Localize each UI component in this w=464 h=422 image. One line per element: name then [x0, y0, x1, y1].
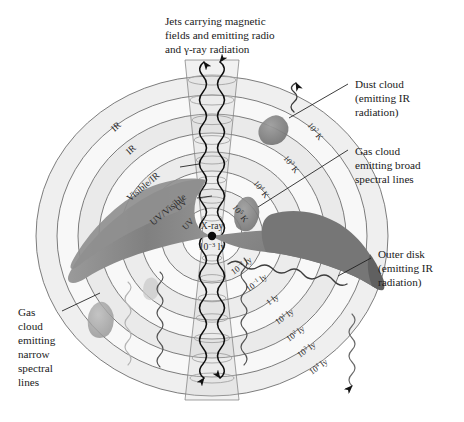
jets-label-line2: fields and emitting radio	[165, 29, 275, 41]
dust-cloud-label-line1: Dust cloud	[355, 78, 404, 90]
callout-broad-line-cloud: Gas cloud emitting broad spectral lines	[355, 145, 421, 185]
callout-outer-disk: Outer disk (emitting IR radiation)	[378, 248, 434, 289]
dust-cloud-label-line3: radiation)	[355, 106, 399, 119]
broad-line-gas-cloud-label-line3: spectral lines	[355, 173, 414, 185]
dust-cloud-label-line2: (emitting IR	[355, 92, 411, 105]
broad-line-gas-cloud-label-line2: emitting broad	[355, 159, 421, 171]
ring-label-xray-center: X-ray	[201, 220, 224, 231]
outer-disk-label-line1: Outer disk	[378, 248, 425, 260]
jets-label-line3: and γ-ray radiation	[165, 43, 250, 55]
narrow-line-gas-cloud-label-line3: emitting	[18, 334, 56, 346]
narrow-line-gas-cloud-label-line4: narrow	[18, 348, 51, 360]
narrow-line-gas-cloud-label-line1: Gas	[18, 306, 35, 318]
broad-line-gas-cloud-label-line1: Gas cloud	[355, 145, 400, 157]
callout-jets: Jets carrying magnetic fields and emitti…	[165, 15, 275, 55]
narrow-line-gas-cloud-label-line2: cloud	[18, 320, 43, 332]
agn-diagram-figure: IR IR Visible/IR UV/Visible UV UV X-ray …	[0, 0, 464, 422]
callout-dust-cloud: Dust cloud (emitting IR radiation)	[355, 78, 411, 119]
agn-diagram-svg: IR IR Visible/IR UV/Visible UV UV X-ray …	[0, 0, 464, 422]
callout-narrow-line-cloud: Gas cloud emitting narrow spectral lines	[18, 306, 56, 388]
black-hole-dot	[208, 232, 216, 240]
narrow-line-gas-cloud-label-line5: spectral	[18, 362, 53, 374]
narrow-line-gas-cloud-label-line6: lines	[18, 376, 39, 388]
outer-disk-label-line3: radiation)	[378, 276, 422, 289]
jets-label-line1: Jets carrying magnetic	[165, 15, 266, 27]
outer-disk-label-line2: (emitting IR	[378, 262, 434, 275]
